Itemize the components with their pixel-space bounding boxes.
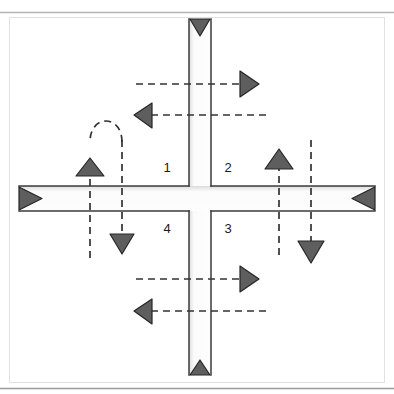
movement-north-through-west-arrow-left-icon [134, 103, 152, 128]
intersection-svg-canvas: 1 2 3 4 [0, 0, 394, 394]
movement-east-north-up-arrow-icon [265, 149, 293, 169]
quadrant-label-4: 4 [163, 221, 170, 236]
quadrant-label-2: 2 [224, 160, 231, 175]
horizontal-road-body [18, 186, 376, 211]
movement-west-u-turn-loop-path [90, 121, 122, 142]
quadrant-label-1: 1 [163, 160, 170, 175]
movement-south-through-west-arrow-left-icon [134, 299, 152, 324]
intersection-diagram: 1 2 3 4 [0, 0, 394, 394]
movement-west-south-down-arrow-icon [110, 234, 134, 254]
movement-south-through-east-arrow-right-icon [240, 266, 259, 292]
quadrant-label-3: 3 [224, 221, 231, 236]
movement-east-south-down-arrow-icon [298, 241, 324, 263]
movement-west-north-up-arrow-icon [76, 158, 104, 176]
movement-north-through-east-arrow-right-icon [240, 71, 259, 97]
